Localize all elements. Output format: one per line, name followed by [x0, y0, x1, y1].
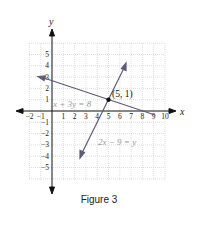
svg-text:−1: −1	[41, 118, 49, 127]
svg-text:2: 2	[73, 112, 77, 121]
line-x-plus-3y-eq-8	[38, 76, 155, 115]
intersection-point	[106, 98, 110, 102]
svg-text:−4: −4	[41, 152, 49, 161]
svg-text:3: 3	[84, 112, 88, 121]
x-axis-label: x	[179, 106, 185, 117]
svg-text:6: 6	[118, 112, 122, 121]
svg-text:7: 7	[129, 112, 133, 121]
svg-text:2: 2	[45, 84, 49, 93]
eq2-label: 2x − 9 = y	[98, 137, 136, 147]
point-label: (5, 1)	[112, 89, 133, 100]
y-axis-label: y	[48, 16, 54, 27]
svg-text:10: 10	[161, 112, 169, 121]
eq1-label: x + 3y = 8	[52, 99, 92, 109]
svg-text:1: 1	[45, 95, 49, 104]
svg-text:1: 1	[61, 112, 65, 121]
svg-text:−5: −5	[41, 163, 49, 172]
svg-text:4: 4	[45, 61, 49, 70]
figure-caption: Figure 3	[0, 194, 198, 205]
svg-text:5: 5	[45, 50, 49, 59]
svg-text:−3: −3	[41, 140, 49, 149]
svg-text:9: 9	[152, 112, 156, 121]
svg-text:8: 8	[141, 112, 145, 121]
svg-text:3: 3	[45, 73, 49, 82]
svg-text:−2: −2	[41, 129, 49, 138]
chart: −2 −1 1 2 3 4 5 6 7 8 9 10 5 4 3 2 1 −1 …	[0, 0, 198, 227]
svg-text:−2: −2	[25, 112, 33, 121]
svg-text:5: 5	[107, 112, 111, 121]
